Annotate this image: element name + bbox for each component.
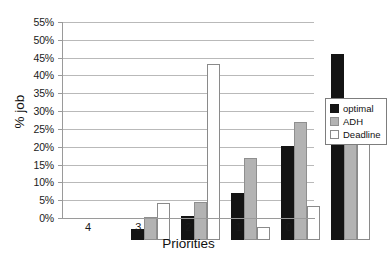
y-tick-label: 50% [8, 34, 54, 46]
legend-item-adh: ADH [330, 116, 381, 127]
legend-label: optimal [343, 103, 374, 114]
x-tick-label: 3 [113, 221, 163, 233]
legend: optimalADHDeadline [325, 98, 387, 145]
legend-item-deadline: Deadline [330, 129, 381, 140]
legend-swatch-deadline-icon [330, 130, 339, 139]
y-axis-title: % job [12, 67, 27, 157]
y-tick-label: 5% [8, 194, 54, 206]
y-tick-label: 10% [8, 176, 54, 188]
x-tick-label: 0 [264, 221, 314, 233]
legend-label: Deadline [343, 129, 381, 140]
bar-optimal-0 [331, 54, 344, 240]
legend-swatch-adh-icon [330, 117, 339, 126]
y-axis-line [62, 22, 63, 219]
y-tick-label: 15% [8, 159, 54, 171]
bar-group [276, 44, 326, 240]
bar-deadline-3 [207, 64, 220, 240]
plot-area [62, 22, 314, 218]
x-axis-ticks: 43210 [63, 221, 314, 233]
gridline [62, 40, 314, 41]
bar-chart: 0%5%10%15%20%25%30%35%40%45%50%55% % job… [0, 0, 392, 258]
x-tick-label: 4 [63, 221, 113, 233]
legend-item-optimal: optimal [330, 103, 381, 114]
x-axis-line [62, 218, 315, 219]
x-tick-label: 1 [214, 221, 264, 233]
gridline [62, 22, 314, 23]
legend-swatch-optimal-icon [330, 104, 339, 113]
x-tick-label: 2 [163, 221, 213, 233]
y-tick-label: 55% [8, 16, 54, 28]
y-tick-label: 45% [8, 52, 54, 64]
bar-group [175, 44, 225, 240]
bar-deadline-0 [357, 135, 370, 240]
x-axis-title: Priorities [63, 236, 314, 251]
legend-label: ADH [343, 116, 363, 127]
bar-group [125, 44, 175, 240]
y-tick-label: 0% [8, 212, 54, 224]
bar-adh-0 [344, 136, 357, 240]
bar-group [225, 44, 275, 240]
